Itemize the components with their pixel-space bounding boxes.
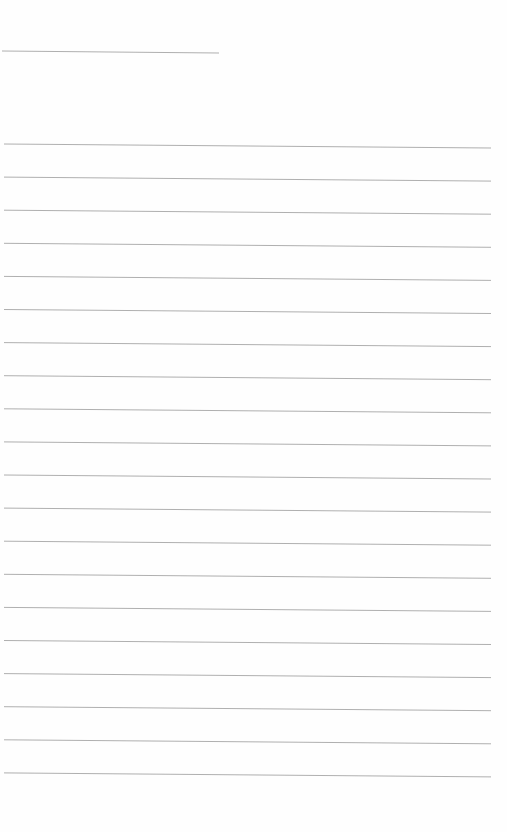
ruled-line: [4, 376, 491, 380]
header-rule-line: [2, 51, 219, 53]
ruled-line: [4, 210, 491, 214]
ruled-line: [4, 707, 491, 711]
ruled-line: [4, 409, 491, 413]
ruled-line: [4, 607, 491, 611]
ruled-line: [4, 442, 491, 446]
ruled-lines: [0, 0, 507, 832]
ruled-line: [4, 177, 491, 181]
ruled-line: [4, 310, 491, 314]
ruled-line: [4, 243, 491, 247]
ruled-line: [4, 740, 491, 744]
ruled-line: [4, 475, 491, 479]
ruled-line: [4, 276, 491, 280]
ruled-line: [4, 574, 491, 578]
ruled-line: [4, 541, 491, 545]
ruled-line: [4, 508, 491, 512]
ruled-line: [4, 674, 491, 678]
lined-paper-page: [0, 0, 507, 832]
ruled-line: [4, 641, 491, 645]
ruled-line: [4, 773, 491, 777]
ruled-line: [4, 343, 491, 347]
ruled-line: [4, 144, 491, 148]
